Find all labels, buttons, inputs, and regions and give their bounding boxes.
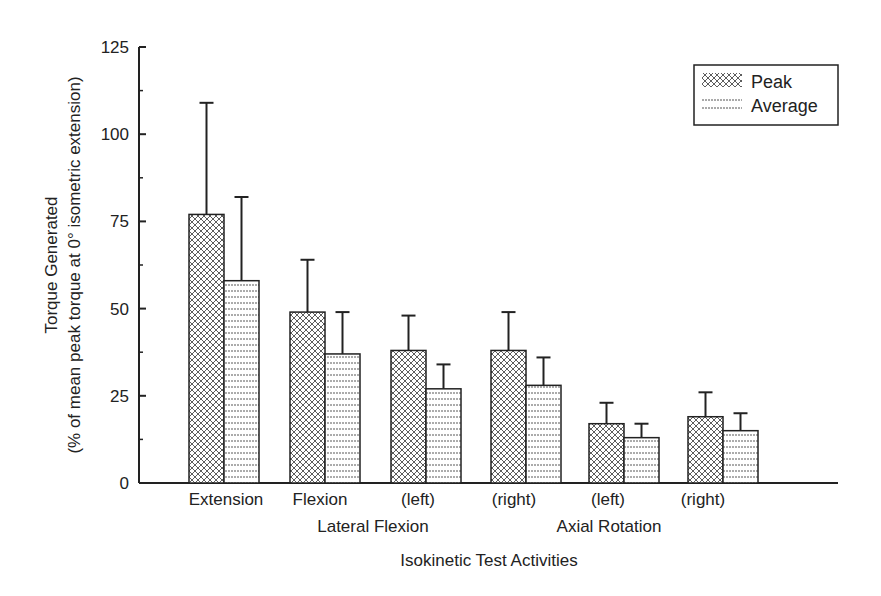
y-axis: 0255075100125 <box>101 38 146 493</box>
bar-peak <box>491 350 526 483</box>
legend-peak-swatch <box>702 73 742 87</box>
cat-label: Extension <box>189 490 264 509</box>
y-axis-title: Torque Generated <box>42 196 61 333</box>
y-tick-label: 0 <box>120 474 129 493</box>
bar-peak <box>290 312 325 483</box>
bar-average <box>224 281 259 483</box>
group-label-lateral-flexion: Lateral Flexion <box>317 517 429 536</box>
y-tick-label: 125 <box>101 38 129 57</box>
y-tick-label: 50 <box>110 300 129 319</box>
y-tick-label: 25 <box>110 387 129 406</box>
legend-peak-label: Peak <box>751 72 793 92</box>
x-axis-title: Isokinetic Test Activities <box>400 551 577 570</box>
x-tick-labels: Extension Flexion (left) (right) (left) … <box>189 490 726 509</box>
bar-average <box>426 389 461 483</box>
chart: 0255075100125 Peak Average Extension Fle… <box>0 0 881 596</box>
y-axis-subtitle: (% of mean peak torque at 0° isometric e… <box>65 76 84 453</box>
cat-label: (right) <box>492 490 536 509</box>
group-label-axial-rotation: Axial Rotation <box>557 517 662 536</box>
y-tick-label: 100 <box>101 125 129 144</box>
bar-average <box>723 431 758 483</box>
bar-peak <box>189 214 224 483</box>
bar-average <box>624 438 659 483</box>
cat-label: (left) <box>591 490 625 509</box>
cat-label: (left) <box>401 490 435 509</box>
bar-peak <box>589 424 624 483</box>
bar-average <box>325 354 360 483</box>
y-tick-label: 75 <box>110 212 129 231</box>
bar-average <box>526 385 561 483</box>
cat-label: Flexion <box>293 490 348 509</box>
cat-label: (right) <box>681 490 725 509</box>
bars <box>189 103 758 483</box>
bar-peak <box>688 417 723 483</box>
legend: Peak Average <box>694 65 838 125</box>
bar-peak <box>391 350 426 483</box>
legend-average-label: Average <box>751 96 818 116</box>
